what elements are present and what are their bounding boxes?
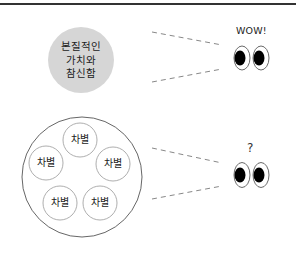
sight-lines-bottom [152,148,222,199]
core-value-label: 본질적인 가치와 참신함 [48,40,114,81]
core-value-line-2: 가치와 [48,54,114,68]
differentiation-label: 차별 [40,197,80,209]
core-value-line-1: 본질적인 [48,40,114,54]
differentiation-label: 차별 [93,158,133,170]
differentiation-label: 차별 [60,134,100,146]
eyes-icon-bottom [234,163,269,188]
eyes-icon-top [234,46,269,70]
differentiation-label: 차별 [26,157,66,169]
diagram-canvas [0,0,305,256]
sight-lines-top [152,32,222,82]
reaction-question: ? [247,141,253,155]
core-value-line-3: 참신함 [48,67,114,81]
reaction-wow: WOW! [236,25,267,36]
differentiation-label: 차별 [80,197,120,209]
